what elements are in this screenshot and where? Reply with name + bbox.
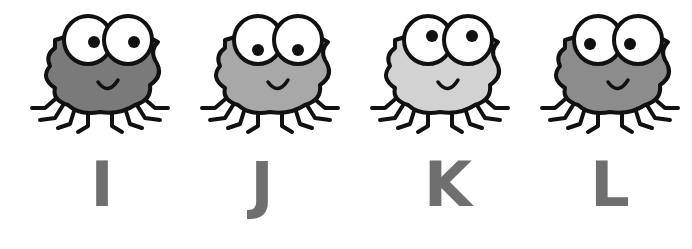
letter-k: K (408, 150, 488, 220)
letter-j: J (222, 150, 302, 220)
spider-l (520, 0, 692, 140)
spider-i (10, 0, 190, 140)
spider-k (350, 0, 530, 140)
letter-l: L (570, 150, 650, 220)
spider-j (180, 0, 360, 140)
letter-i: I (62, 150, 142, 220)
